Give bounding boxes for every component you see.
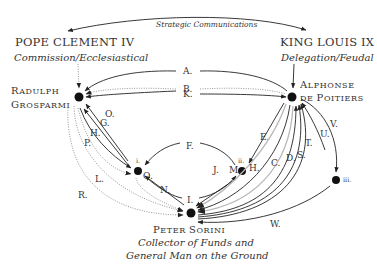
- edge-j: [196, 178, 237, 206]
- edge-v-label: V.: [329, 119, 338, 129]
- svg-text:GROSPARMI: GROSPARMI: [11, 99, 70, 110]
- radulph-node: [75, 93, 84, 102]
- strategic-communications-label: Strategic Communications: [156, 20, 257, 29]
- actor-pope-clement: POPE CLEMENT IV Commission/Ecclesiastica…: [14, 35, 148, 63]
- edge-p-label: P.: [84, 138, 91, 148]
- node-ii-label: ii.: [238, 157, 244, 165]
- alphonse-node: [288, 93, 297, 102]
- actor-alphonse-de-poitiers: ALPHONSE DE POITIERS: [288, 79, 364, 103]
- edge-l: [74, 106, 183, 211]
- node-iii-label: iii.: [343, 176, 351, 184]
- peter-role-line2: General Man on the Ground: [126, 250, 268, 261]
- actor-peter-sorini: PETER SORINI Collector of Funds and Gene…: [126, 209, 268, 262]
- edge-k-right: [200, 94, 286, 97]
- edge-b-right: [200, 88, 286, 94]
- actor-king-louis: KING LOUIS IX Delegation/Feudal: [280, 35, 375, 63]
- edge-f-right: [200, 143, 235, 165]
- svg-text:RADULPH: RADULPH: [11, 85, 59, 96]
- king-name: KING LOUIS IX: [280, 35, 375, 49]
- pope-to-radulph-link: [78, 64, 79, 88]
- edge-n-label: N.: [160, 185, 170, 195]
- edge-h-left-label: H.: [90, 128, 101, 138]
- edge-m-label: M.: [229, 165, 241, 175]
- edge-c-label: C.: [271, 158, 281, 168]
- communication-network-diagram: Strategic Communications POPE CLEMENT IV…: [0, 0, 377, 273]
- pope-name: POPE CLEMENT IV: [15, 35, 135, 49]
- edge-k-label: K.: [183, 89, 193, 99]
- intermediary-node-i: [134, 167, 142, 175]
- edge-t-label: T.: [305, 138, 313, 148]
- svg-text:DE POITIERS: DE POITIERS: [300, 92, 364, 103]
- king-role: Delegation/Feudal: [280, 52, 374, 63]
- edge-j-label: J.: [212, 165, 219, 175]
- svg-text:PETER SORINI: PETER SORINI: [153, 224, 225, 235]
- edge-f-label: F.: [186, 141, 194, 151]
- pope-role: Commission/Ecclesiastical: [14, 52, 148, 63]
- edge-a-left: [85, 71, 176, 91]
- edge-w-label: W.: [270, 219, 281, 229]
- strategic-communications-link: Strategic Communications: [68, 17, 306, 31]
- node-i-label: i.: [136, 157, 140, 165]
- king-to-alphonse-link: [293, 64, 294, 88]
- edge-k-left: [86, 91, 176, 97]
- edge-f-left: [145, 143, 180, 165]
- edge-u-label: U.: [320, 129, 330, 139]
- svg-text:ALPHONSE: ALPHONSE: [299, 79, 355, 90]
- intermediary-node-iii: [332, 176, 340, 184]
- edge-h-right-label: H.: [249, 163, 260, 173]
- edge-i-label: I.: [187, 195, 194, 205]
- peter-role-line1: Collector of Funds and: [138, 237, 254, 248]
- edge-r-label: R.: [78, 190, 88, 200]
- edge-a-label: A.: [182, 66, 192, 76]
- edge-q-label: Q.: [143, 171, 153, 181]
- edge-g-label: G.: [100, 118, 110, 128]
- edge-l-label: L.: [95, 174, 104, 184]
- actor-radulph-grosparmi: RADULPH GROSPARMI: [11, 85, 84, 110]
- peter-node: [187, 209, 196, 218]
